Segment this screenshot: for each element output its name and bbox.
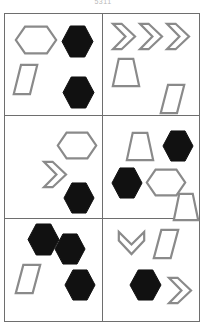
figure-sheet: 5311 [0,0,206,335]
chevron-right-outline-shape[interactable] [112,23,136,50]
chevron-right-outline-shape[interactable] [168,277,192,304]
hexagon-wide-outline-shape[interactable] [57,132,97,159]
parallelogram-outline-shape[interactable] [153,229,179,259]
parallelogram-outline-shape[interactable] [160,84,185,114]
chevron-right-outline-shape[interactable] [166,23,190,50]
trapezoid-outline-shape[interactable] [173,193,199,221]
hexagon-solid-shape[interactable] [61,25,94,58]
hexagon-solid-shape[interactable] [63,182,95,214]
shape-layer [5,14,199,321]
chevron-down-outline-shape[interactable] [118,231,145,255]
header-title-fragment: 5311 [0,0,206,4]
hexagon-wide-outline-shape[interactable] [15,26,57,54]
hexagon-solid-shape[interactable] [64,269,96,301]
trapezoid-outline-shape[interactable] [112,58,140,87]
trapezoid-outline-shape[interactable] [126,132,154,161]
hexagon-wide-outline-shape[interactable] [146,169,186,196]
hexagon-solid-shape[interactable] [54,233,86,265]
hexagon-solid-shape[interactable] [162,130,194,162]
chevron-right-outline-shape[interactable] [139,23,163,50]
shape-grid [4,13,200,322]
parallelogram-outline-shape[interactable] [15,264,41,294]
hexagon-solid-shape[interactable] [62,76,95,109]
hexagon-solid-shape[interactable] [129,269,162,301]
parallelogram-outline-shape[interactable] [13,64,38,95]
hexagon-solid-shape[interactable] [111,167,143,199]
